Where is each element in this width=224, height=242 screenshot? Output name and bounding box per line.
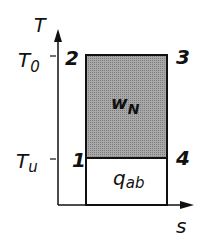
tu-label: Tu <box>16 149 38 176</box>
point-1-label: 1 <box>72 148 86 172</box>
x-axis-label-s: s <box>176 214 186 238</box>
y-axis-arrow-icon <box>54 29 62 42</box>
point-3-label: 3 <box>176 45 190 69</box>
ts-diagram: T s T0 Tu 2 3 1 4 wN qab <box>0 0 224 242</box>
point-4-label: 4 <box>175 146 190 170</box>
y-axis-label: T <box>34 14 47 36</box>
x-axis-arrow-icon <box>180 201 194 209</box>
t0-label: T0 <box>18 48 40 76</box>
point-2-label: 2 <box>65 46 79 70</box>
